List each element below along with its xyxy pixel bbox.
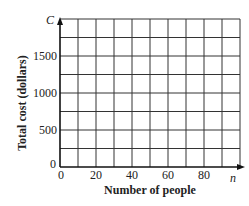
grid xyxy=(60,19,240,167)
x-tick-0: 0 xyxy=(58,168,64,182)
axes xyxy=(60,22,238,167)
x-axis-arrow-icon xyxy=(237,164,245,170)
y-tick-0: 0 xyxy=(50,157,56,171)
y-axis-title: Total cost (dollars) xyxy=(15,55,29,151)
y-tick-500: 500 xyxy=(39,123,57,137)
y-tick-1000: 1000 xyxy=(33,86,57,100)
chart: C n 1500 1000 500 0 0 20 40 60 80 Number… xyxy=(0,0,249,206)
y-axis-arrow-icon xyxy=(57,17,63,25)
y-variable-label: C xyxy=(46,13,55,27)
x-tick-40: 40 xyxy=(126,168,138,182)
x-axis-title: Number of people xyxy=(104,183,196,197)
x-tick-20: 20 xyxy=(90,168,102,182)
y-tick-1500: 1500 xyxy=(33,49,57,63)
x-variable-label: n xyxy=(230,171,236,185)
x-tick-60: 60 xyxy=(162,168,174,182)
x-tick-80: 80 xyxy=(198,168,210,182)
